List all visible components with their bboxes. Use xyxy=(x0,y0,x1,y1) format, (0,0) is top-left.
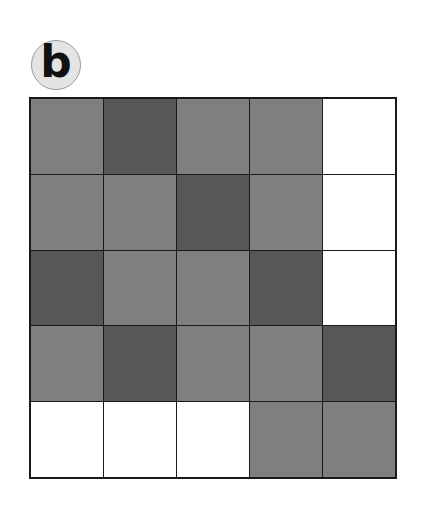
grid-cell-r3-c4 xyxy=(250,251,322,326)
panel-label-badge: b xyxy=(31,40,81,90)
grid-cell-r2-c1 xyxy=(31,175,103,250)
grid-cell-r4-c1 xyxy=(31,326,103,401)
grid-cell-r4-c5 xyxy=(323,326,395,401)
grid-cell-r4-c2 xyxy=(104,326,176,401)
grid-cell-r5-c2 xyxy=(104,402,176,477)
grid-cell-r2-c4 xyxy=(250,175,322,250)
grid-cell-r1-c3 xyxy=(177,99,249,174)
grid-cell-r1-c2 xyxy=(104,99,176,174)
grid-cell-r5-c3 xyxy=(177,402,249,477)
grid-cell-r5-c4 xyxy=(250,402,322,477)
grid-cell-r3-c1 xyxy=(31,251,103,326)
grid-cell-r2-c3 xyxy=(177,175,249,250)
grid-cell-r1-c4 xyxy=(250,99,322,174)
grid-cell-r3-c3 xyxy=(177,251,249,326)
grid-cell-r5-c5 xyxy=(323,402,395,477)
grid-cell-r5-c1 xyxy=(31,402,103,477)
tile-grid xyxy=(29,97,397,479)
grid-cell-r2-c2 xyxy=(104,175,176,250)
grid-cell-r2-c5 xyxy=(323,175,395,250)
panel-label: b xyxy=(40,40,72,84)
grid-cell-r4-c3 xyxy=(177,326,249,401)
grid-cell-r4-c4 xyxy=(250,326,322,401)
grid-cell-r3-c5 xyxy=(323,251,395,326)
grid-cell-r1-c5 xyxy=(323,99,395,174)
grid-cell-r1-c1 xyxy=(31,99,103,174)
grid-cell-r3-c2 xyxy=(104,251,176,326)
